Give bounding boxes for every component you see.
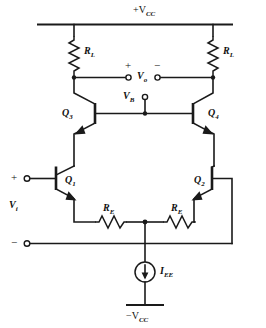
wire-q2-base: [212, 179, 232, 244]
arrow-q1-emitter: [66, 191, 77, 200]
rl-left-subscript: L: [91, 51, 95, 59]
resistor-rl-right: [208, 36, 218, 77]
output-voltage-symbol: V: [137, 70, 144, 81]
wire-q3-collector: [74, 78, 95, 105]
negative-supply-subscript: CC: [139, 316, 148, 324]
label-current-source: IEE: [160, 266, 173, 279]
resistor-re-left: [95, 216, 127, 228]
label-input-voltage: Vi: [9, 200, 18, 213]
node-dot-bias: [143, 111, 147, 115]
output-voltage-subscript: o: [144, 76, 148, 84]
resistor-re-right: [163, 216, 195, 228]
label-input-plus: +: [11, 172, 17, 183]
wire-q3-emitter-to-q1-collector: [74, 133, 77, 167]
q2-subscript: 2: [201, 180, 205, 188]
label-input-minus: −: [11, 237, 17, 248]
label-transistor-q2: Q2: [194, 175, 205, 188]
label-resistor-re-left: RE: [103, 203, 114, 216]
label-transistor-q1: Q1: [65, 175, 76, 188]
label-output-minus: −: [154, 60, 160, 71]
negative-supply-sign: −V: [126, 310, 139, 321]
q4-subscript: 4: [215, 113, 219, 121]
arrow-q2-emitter: [192, 191, 203, 200]
current-source-subscript: EE: [164, 271, 173, 279]
label-transistor-q3: Q3: [62, 108, 73, 121]
label-negative-supply: −VCC: [126, 311, 148, 324]
rl-right-subscript: L: [230, 51, 234, 59]
terminal-input-positive[interactable]: [24, 176, 30, 182]
wire-q4-emitter-to-q2-collector: [211, 133, 214, 167]
label-bias-voltage: VB: [123, 91, 134, 104]
rl-right-symbol: R: [223, 45, 230, 56]
label-resistor-rl-right: RL: [223, 46, 234, 59]
wire-q1-emitter-to-re: [74, 199, 95, 222]
circuit-diagram: +VCC RL RL + − Vo VB Q3 Q4 + Q1 Q2 Vi RE: [0, 0, 266, 328]
bias-voltage-symbol: V: [123, 90, 130, 101]
re-left-subscript: E: [110, 208, 115, 216]
q3-subscript: 3: [69, 113, 73, 121]
positive-supply-sign: +V: [133, 4, 146, 15]
q1-subscript: 1: [72, 180, 76, 188]
re-left-symbol: R: [103, 202, 110, 213]
terminal-input-negative[interactable]: [24, 241, 30, 247]
bias-voltage-subscript: B: [130, 96, 135, 104]
rl-left-symbol: R: [84, 45, 91, 56]
label-resistor-re-right: RE: [171, 203, 182, 216]
wire-q2-emitter-to-re: [194, 199, 195, 222]
wire-q4-collector: [193, 78, 213, 105]
input-voltage-subscript: i: [16, 205, 18, 213]
label-transistor-q4: Q4: [208, 108, 219, 121]
label-output-voltage: Vo: [137, 71, 147, 84]
label-output-plus: +: [125, 60, 131, 71]
terminal-output-negative[interactable]: [155, 75, 160, 80]
terminal-output-positive[interactable]: [126, 75, 131, 80]
resistor-rl-left: [69, 36, 79, 77]
input-voltage-symbol: V: [9, 199, 16, 210]
positive-supply-subscript: CC: [146, 10, 155, 18]
re-right-symbol: R: [171, 202, 178, 213]
label-resistor-rl-left: RL: [84, 46, 95, 59]
re-right-subscript: E: [178, 208, 183, 216]
label-positive-supply: +VCC: [133, 5, 155, 18]
